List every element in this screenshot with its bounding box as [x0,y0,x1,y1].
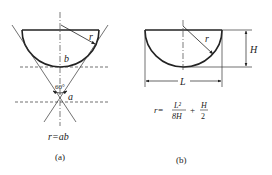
semicircle-b [145,30,222,67]
label-r-a: r [89,31,93,42]
label-angle: 60° [55,83,65,91]
diagram-canvas: r b 60° a r=ab (a) L H r r= L² 8H + H 2 [0,0,272,175]
formula-plus: + [190,105,195,115]
frac1-num: L² [173,101,181,110]
label-L: L [179,76,186,87]
semicircle-a [22,30,99,67]
label-a: a [68,91,73,102]
label-H: H [249,44,258,55]
tangent-line-right [44,25,108,122]
tangent-line-left [12,25,76,122]
frac2-num: H [200,101,208,110]
figure-b: L H r r= L² 8H + H 2 (b) [145,20,258,165]
caption-a: (a) [55,152,65,162]
caption-b: (b) [176,155,187,165]
formula-lhs: r= [154,105,164,115]
figure-a: r b 60° a r=ab (a) [12,12,110,162]
formula-a: r=ab [48,131,69,142]
label-r-b: r [205,33,209,44]
frac1-den: 8H [172,112,183,121]
frac2-den: 2 [201,112,205,121]
label-b: b [64,53,69,64]
